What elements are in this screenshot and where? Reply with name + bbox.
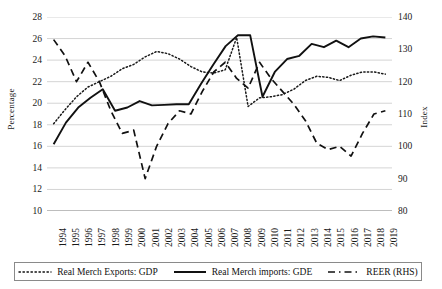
x-tick-2000: 2000 — [137, 228, 147, 247]
dashed-line-key — [327, 268, 361, 276]
x-tick-2012: 2012 — [296, 228, 306, 247]
y-tick-left: 28 — [18, 12, 42, 22]
plot-area — [47, 17, 392, 211]
y-tick-left: 20 — [18, 98, 42, 108]
chart-svg — [47, 17, 392, 211]
legend-label-exports: Real Merch Exports: GDP — [57, 267, 158, 277]
y-tick-right: 110 — [398, 109, 424, 119]
legend-item-exports: Real Merch Exports: GDP — [18, 267, 158, 277]
legend-item-imports: Real Merch imports: GDE — [173, 267, 313, 277]
y-tick-right: 100 — [398, 141, 424, 151]
x-tick-2010: 2010 — [270, 228, 280, 247]
x-tick-2019: 2019 — [389, 228, 399, 247]
chart-container: Percentage Index 28262422201816141210 14… — [0, 0, 442, 289]
y-tick-left: 10 — [18, 206, 42, 216]
x-tick-2009: 2009 — [257, 228, 267, 247]
dotted-line-key — [18, 268, 52, 276]
legend-label-reer: REER (RHS) — [366, 267, 417, 277]
y-tick-left: 12 — [18, 184, 42, 194]
x-tick-2013: 2013 — [310, 228, 320, 247]
x-tick-2002: 2002 — [164, 228, 174, 247]
y-tick-right: 80 — [398, 206, 424, 216]
x-tick-2018: 2018 — [376, 228, 386, 247]
x-tick-2015: 2015 — [336, 228, 346, 247]
y-tick-left: 24 — [18, 55, 42, 65]
y-tick-left: 26 — [18, 34, 42, 44]
x-tick-2016: 2016 — [350, 228, 360, 247]
series-lines — [54, 35, 386, 178]
y-tick-right: 90 — [398, 174, 424, 184]
y-axis-left-title: Percentage — [6, 79, 16, 139]
legend-label-imports: Real Merch imports: GDE — [212, 267, 313, 277]
x-tick-1998: 1998 — [111, 228, 121, 247]
x-tick-2005: 2005 — [204, 228, 214, 247]
y-tick-right: 120 — [398, 77, 424, 87]
x-tick-1997: 1997 — [97, 228, 107, 247]
chart-legend: Real Merch Exports: GDP Real Merch impor… — [14, 262, 422, 281]
series-line-1 — [54, 35, 386, 144]
x-tick-2004: 2004 — [190, 228, 200, 247]
x-tick-2011: 2011 — [283, 228, 293, 247]
x-tick-2008: 2008 — [243, 228, 253, 247]
y-tick-right: 130 — [398, 44, 424, 54]
y-tick-left: 18 — [18, 120, 42, 130]
x-tick-2014: 2014 — [323, 228, 333, 247]
legend-item-reer: REER (RHS) — [327, 267, 417, 277]
solid-line-key — [173, 268, 207, 276]
y-tick-left: 22 — [18, 77, 42, 87]
y-tick-left: 16 — [18, 141, 42, 151]
x-tick-1996: 1996 — [84, 228, 94, 247]
x-tick-2003: 2003 — [177, 228, 187, 247]
y-tick-left: 14 — [18, 163, 42, 173]
x-tick-1994: 1994 — [58, 228, 68, 247]
x-tick-2007: 2007 — [230, 228, 240, 247]
x-tick-2017: 2017 — [363, 228, 373, 247]
x-tick-2006: 2006 — [217, 228, 227, 247]
x-tick-1995: 1995 — [71, 228, 81, 247]
y-tick-right: 140 — [398, 12, 424, 22]
x-tick-1999: 1999 — [124, 228, 134, 247]
series-line-0 — [54, 37, 386, 123]
x-tick-2001: 2001 — [151, 228, 161, 247]
gridlines — [47, 17, 392, 211]
